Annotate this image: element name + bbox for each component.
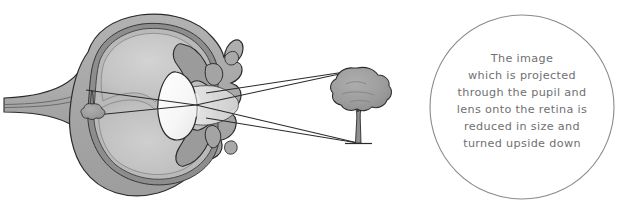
caption-line-2: which is projected [468,69,576,82]
caption-line-5: reduced in size and [464,120,580,133]
caption-bubble: The image which is projected through the… [430,15,614,199]
caption-line-6: turned upside down [463,137,581,150]
eye-image-formation-figure: The image which is projected through the… [0,0,618,215]
tree-object [331,67,392,143]
figure-canvas: The image which is projected through the… [0,0,618,215]
caption-line-1: The image [490,52,553,65]
caption-line-4: lens onto the retina is [457,103,587,116]
caption-line-3: through the pupil and [458,86,587,99]
